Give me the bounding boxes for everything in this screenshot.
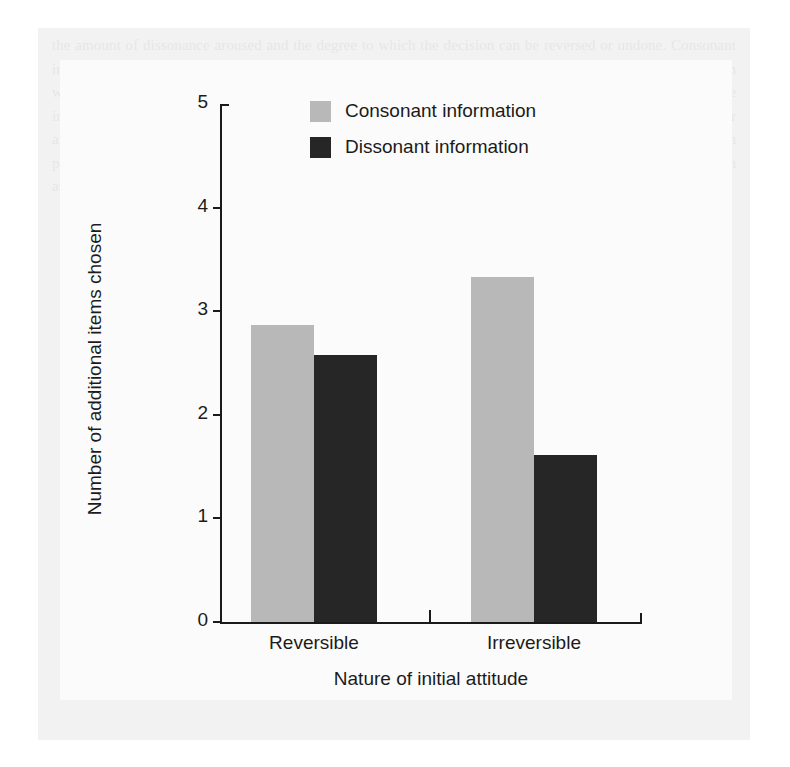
y-axis-title: Number of additional items chosen [84, 159, 106, 579]
x-axis-title: Nature of initial attitude [220, 668, 642, 690]
legend-item-label: Dissonant information [345, 136, 529, 158]
bar-reversible-consonant [251, 325, 314, 622]
bar-chart: 012345 ReversibleIrreversible Nature of … [0, 0, 790, 767]
legend-swatch-icon [310, 137, 331, 158]
bar-reversible-dissonant [314, 355, 377, 622]
bars-layer [0, 0, 790, 622]
x-axis-label-irreversible: Irreversible [439, 632, 629, 654]
bar-irreversible-consonant [471, 277, 534, 622]
legend-item: Dissonant information [310, 136, 536, 158]
x-axis-label-reversible: Reversible [219, 632, 409, 654]
x-axis-line [220, 622, 642, 624]
chart-legend: Consonant informationDissonant informati… [310, 100, 536, 172]
bar-irreversible-dissonant [534, 455, 597, 622]
legend-item: Consonant information [310, 100, 536, 122]
legend-swatch-icon [310, 101, 331, 122]
legend-item-label: Consonant information [345, 100, 536, 122]
